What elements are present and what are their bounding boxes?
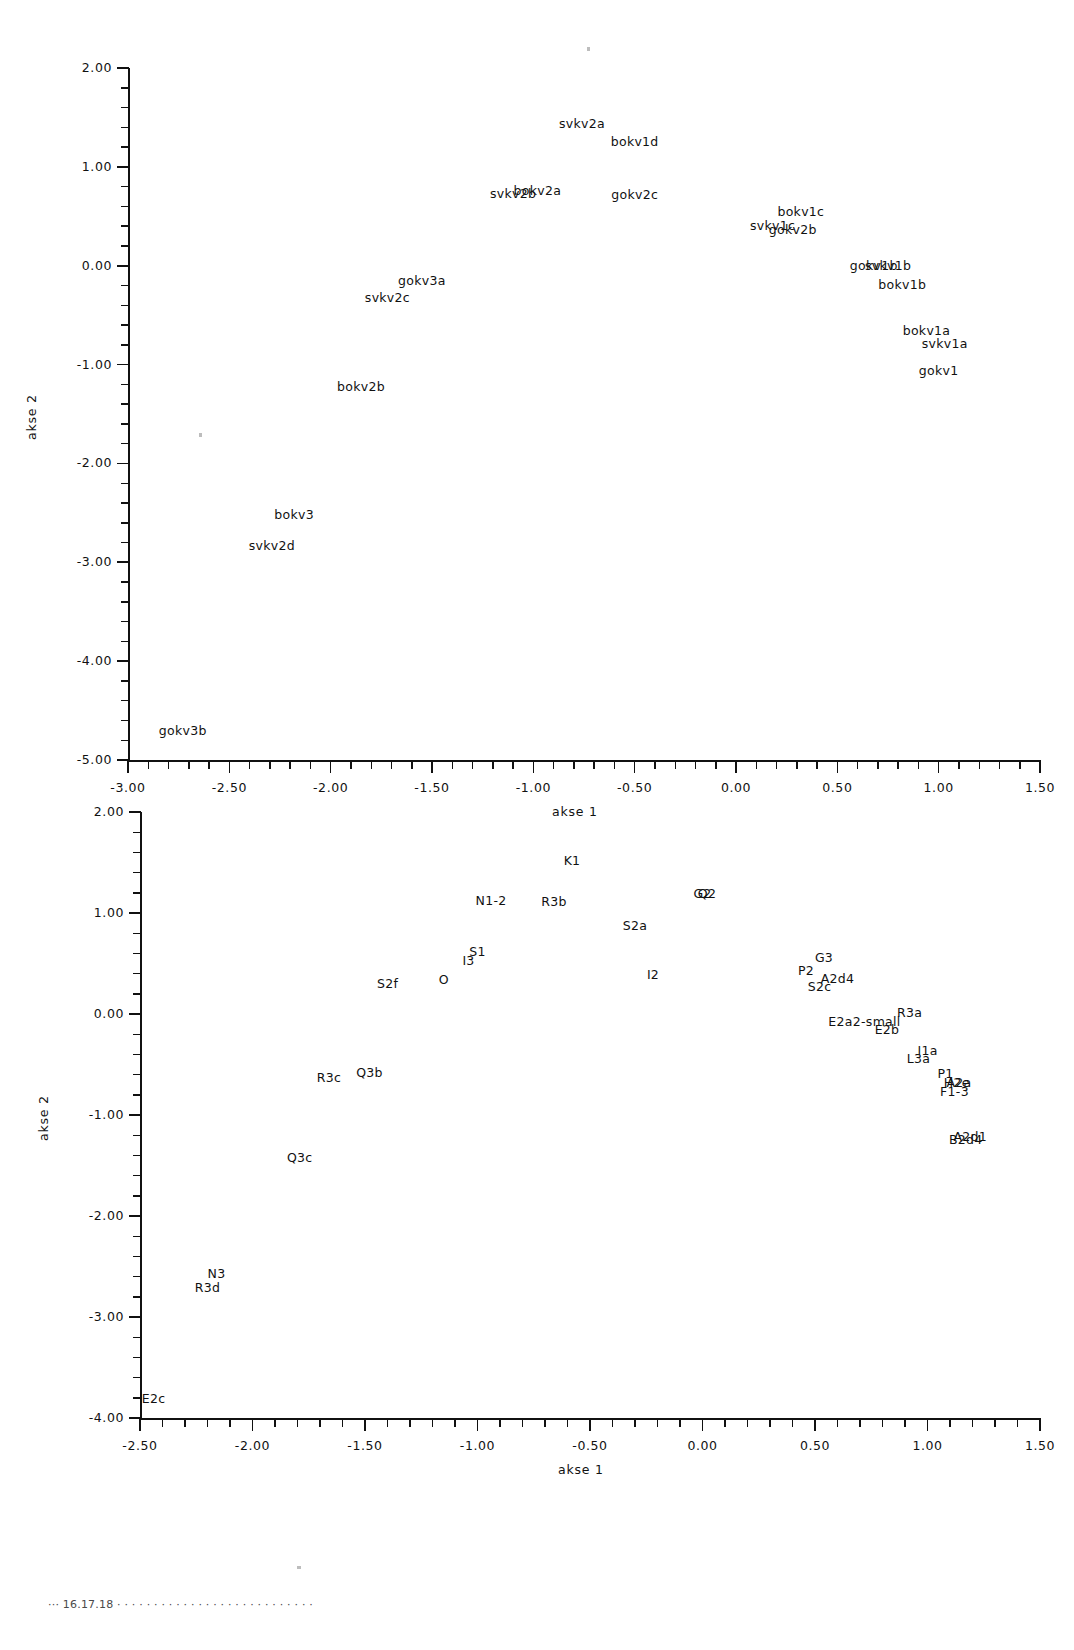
x-minor-tick [207,1418,209,1427]
x-minor-tick [229,1418,231,1427]
y-minor-tick [133,1074,141,1076]
x-tick-label: -0.50 [545,1438,635,1453]
x-minor-tick [882,1418,884,1427]
y-minor-tick [133,1135,141,1137]
x-tick-label: 1.00 [883,1438,973,1453]
y-major-tick [129,912,141,914]
y-minor-tick [133,973,141,975]
x-tick-label: -2.00 [208,1438,298,1453]
y-major-tick [129,1013,141,1015]
x-minor-tick [567,1418,569,1427]
x-minor-tick [432,1418,434,1427]
y-minor-tick [133,892,141,894]
data-point-label: R3b [541,893,566,908]
x-minor-tick [612,1418,614,1427]
y-minor-tick [133,1175,141,1177]
figure-root: 2.001.000.00-1.00-2.00-3.00-4.00-5.00-3.… [0,0,1074,1650]
y-minor-tick [133,1094,141,1096]
x-minor-tick [184,1418,186,1427]
data-point-label: S2c [808,978,832,993]
y-minor-tick [133,933,141,935]
x-tick-label: 0.50 [770,1438,860,1453]
data-point-label: I3 [462,953,474,968]
y-minor-tick [133,1357,141,1359]
data-point-label: S2a [623,918,647,933]
figure-caption: ··· 16.17.18 · · · · · · · · · · · · · ·… [48,1598,313,1611]
y-major-tick [129,811,141,813]
x-tick-label: -1.00 [433,1438,523,1453]
x-minor-tick [634,1418,636,1427]
data-point-label: E2c [142,1390,166,1405]
x-tick-label: -2.50 [95,1438,185,1453]
data-point-label: O [439,971,449,986]
x-minor-tick [274,1418,276,1427]
x-minor-tick [679,1418,681,1427]
y-minor-tick [133,1276,141,1278]
data-point-label: R3a [897,1004,922,1019]
data-point-label: G3 [815,950,833,965]
x-axis-title: akse 1 [558,1462,604,1477]
scan-speck-3 [297,1566,301,1569]
x-minor-tick [769,1418,771,1427]
y-minor-tick [133,1034,141,1036]
data-point-label: S2f [377,975,398,990]
x-major-tick [927,1418,929,1431]
data-point-label: K1 [564,853,581,868]
x-tick-label: 0.00 [658,1438,748,1453]
x-minor-tick [724,1418,726,1427]
y-minor-tick [133,1054,141,1056]
x-minor-tick [544,1418,546,1427]
y-minor-tick [133,1155,141,1157]
data-point-label: Q3c [287,1150,313,1165]
scan-speck-2 [199,433,202,437]
x-minor-tick [454,1418,456,1427]
x-minor-tick [387,1418,389,1427]
x-minor-tick [409,1418,411,1427]
y-tick-label: 1.00 [50,905,124,920]
data-point-label: E2b [875,1022,900,1037]
x-major-tick [1039,1418,1041,1431]
x-major-tick [477,1418,479,1431]
data-point-label: R3c [317,1069,341,1084]
y-major-tick [129,1114,141,1116]
x-minor-tick [319,1418,321,1427]
x-minor-tick [522,1418,524,1427]
y-minor-tick [133,993,141,995]
x-major-tick [814,1418,816,1431]
y-tick-label: -2.00 [50,1208,124,1223]
y-minor-tick [133,852,141,854]
y-minor-tick [133,1195,141,1197]
data-point-label: I2 [647,966,659,981]
x-major-tick [702,1418,704,1431]
data-point-label: N1-2 [476,892,507,907]
data-point-label: Q3b [356,1064,383,1079]
x-major-tick [589,1418,591,1431]
y-minor-tick [133,1377,141,1379]
y-minor-tick [133,1296,141,1298]
y-minor-tick [133,872,141,874]
x-minor-tick [499,1418,501,1427]
y-tick-label: 0.00 [50,1006,124,1021]
x-minor-tick [837,1418,839,1427]
x-major-tick [139,1418,141,1431]
y-minor-tick [133,832,141,834]
x-minor-tick [972,1418,974,1427]
x-major-tick [364,1418,366,1431]
plot-area [140,812,1040,1418]
y-major-tick [129,1215,141,1217]
y-minor-tick [133,953,141,955]
data-point-label: P2 [798,962,814,977]
data-point-label: L3a [907,1051,930,1066]
scatter-plot-bottom: 2.001.000.00-1.00-2.00-3.00-4.00-2.50-2.… [0,0,1074,1650]
x-minor-tick [342,1418,344,1427]
data-point-label: F1-3 [940,1083,969,1098]
data-point-label: N3 [208,1265,226,1280]
x-minor-tick [904,1418,906,1427]
data-point-label: B2d4 [949,1132,983,1147]
y-minor-tick [133,1236,141,1238]
x-minor-tick [162,1418,164,1427]
y-major-tick [129,1316,141,1318]
y-tick-label: 2.00 [50,804,124,819]
x-minor-tick [949,1418,951,1427]
y-tick-label: -4.00 [50,1410,124,1425]
